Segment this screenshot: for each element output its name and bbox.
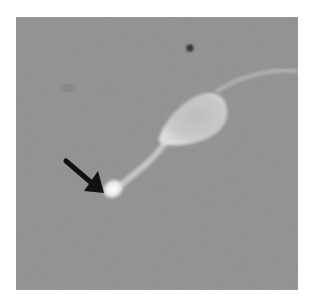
micrograph-frame — [16, 17, 298, 290]
smudge — [60, 85, 76, 91]
debris-dot — [187, 45, 194, 52]
micrograph — [16, 17, 298, 290]
